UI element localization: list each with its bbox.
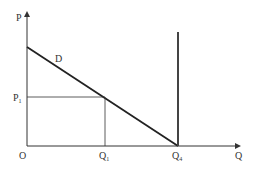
curve-label-d: D bbox=[55, 53, 62, 64]
demand-curve bbox=[27, 47, 178, 146]
x-axis-label: Q bbox=[235, 150, 243, 161]
price-label-p1: P1 bbox=[13, 92, 22, 104]
demand-supply-diagram: P D P1 O Q1 Q4 Q bbox=[0, 0, 255, 172]
quantity-label-q4: Q4 bbox=[172, 150, 182, 162]
quantity-label-q1: Q1 bbox=[99, 150, 109, 162]
origin-label: O bbox=[19, 150, 26, 161]
y-axis-label: P bbox=[16, 12, 22, 23]
